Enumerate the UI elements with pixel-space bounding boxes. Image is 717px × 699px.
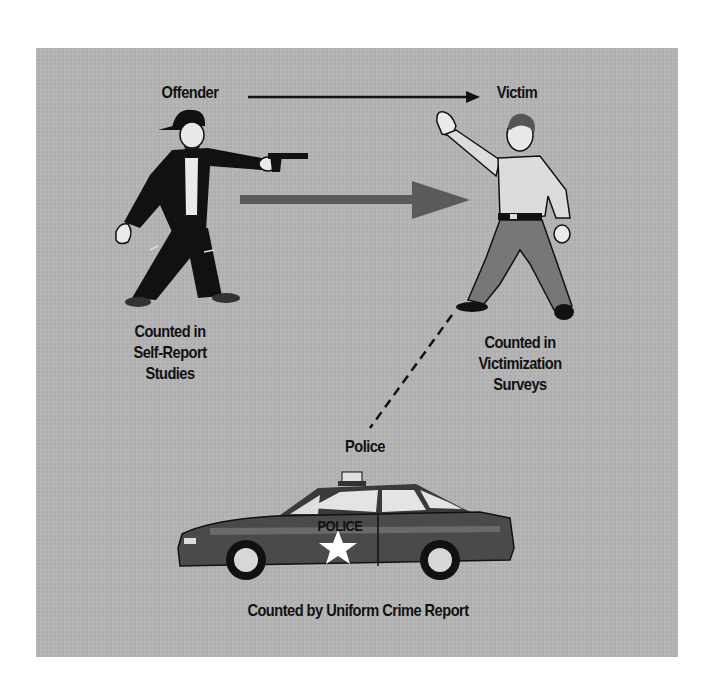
police-car-text: POLICE <box>306 516 375 536</box>
thick-arrow-offender-to-victim <box>240 181 470 219</box>
dashed-line-victim-to-police <box>370 315 452 428</box>
offender-label: Offender <box>143 83 238 103</box>
victim-caption-line: Victimization <box>464 354 576 374</box>
offender-caption-line: Counted in <box>118 322 221 342</box>
diagram-graphics <box>0 0 717 699</box>
victim-label: Victim <box>470 83 565 103</box>
victim-caption-line: Surveys <box>464 375 576 395</box>
police-caption: Counted by Uniform Crime Report <box>186 601 530 621</box>
offender-figure-icon <box>116 110 308 307</box>
victim-caption-line: Counted in <box>464 333 576 353</box>
thin-arrow-offender-to-victim <box>248 91 480 103</box>
police-label: Police <box>322 437 408 457</box>
offender-caption-line: Studies <box>118 364 221 384</box>
offender-caption-line: Self-Report <box>118 343 221 363</box>
victim-figure-icon <box>437 112 574 320</box>
